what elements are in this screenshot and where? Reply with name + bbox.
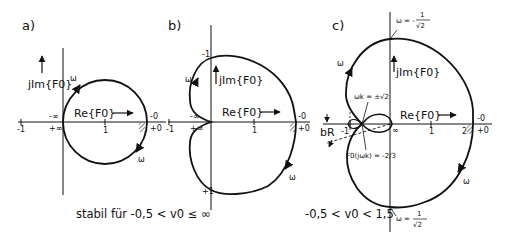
plus-zero-label-b: +0: [298, 124, 310, 133]
omega-label-a-top: ω: [70, 74, 77, 83]
im-axis-label-a: jIm{F0}: [27, 78, 72, 91]
tick-label-c-minus1: -1: [341, 127, 349, 136]
im-tick-label-b-bottom: +1: [202, 187, 214, 196]
minus-inf-label-b: -∞: [190, 112, 200, 121]
omega-label-c-bottom: ω: [463, 177, 470, 186]
re-axis-label-c: Re{F0}: [400, 109, 441, 122]
panel-label-c: c): [332, 18, 344, 33]
omega-bottom-num: 1: [417, 210, 421, 218]
plus-inf-label-b: +∞: [190, 124, 203, 133]
panel-label-b: b): [168, 18, 181, 33]
minus-inf-label-a: -∞: [49, 112, 59, 121]
omega-label-c-top: ω: [337, 59, 344, 68]
plus-inf-label-a: +∞: [49, 124, 62, 133]
leader-omega-top: [390, 30, 397, 39]
tick-label-c-1: 1: [429, 127, 434, 136]
br-label: bR: [320, 126, 335, 139]
panel-a: [18, 48, 166, 195]
omega-top-den: √2: [416, 22, 425, 30]
f-k-annotation: F0(jωk) = -2/3: [346, 152, 396, 160]
tick-label-a-1: 1: [103, 126, 108, 135]
omega-label-b-bottom: ω: [289, 173, 296, 182]
tick-label-a-minus1: -1: [17, 125, 25, 134]
caption-stability-c: -0,5 < v0 < 1,5: [305, 207, 394, 221]
panel-c: [323, 12, 492, 232]
omega-label-a-bottom: ω: [138, 155, 145, 164]
plus-zero-label-c: +0: [477, 126, 489, 135]
im-tick-label-b-top: -1: [202, 50, 210, 59]
omega-top-num: 1: [420, 11, 424, 19]
nyquist-figure: a) jIm{F0} Re{F0} -1 1 -∞ +∞ -0 +0 ω ω b…: [0, 0, 507, 237]
inf-label-c: ∞: [392, 126, 399, 135]
plus-zero-label-a: +0: [150, 124, 162, 133]
omega-arrow-icon: [195, 78, 198, 84]
re-axis-label-a: Re{F0}: [74, 107, 115, 120]
omega-bottom-den: √2: [413, 221, 422, 229]
hatch-a: [139, 123, 145, 132]
locus-c-outer: [346, 39, 473, 208]
tangent-arrow-icon: [329, 140, 332, 147]
tick-label-b-minus1: -1: [166, 125, 174, 134]
minus-zero-label-b: -0: [298, 112, 306, 121]
omega-top-annotation: ω = -: [396, 17, 415, 25]
omega-label-b-top: ω: [185, 75, 192, 84]
omega-bottom-annotation: ω =: [396, 215, 410, 223]
hatch-b: [290, 123, 296, 132]
tick-label-c-2: 2: [462, 127, 467, 136]
panel-label-a: a): [22, 18, 35, 33]
re-axis-label-b: Re{F0}: [222, 106, 263, 119]
minus-zero-label-a: -0: [150, 112, 158, 121]
minus-zero-label-c: -0: [477, 114, 485, 123]
im-axis-label-b: jIm{F0}: [218, 74, 263, 87]
omega-k-annotation: ωk = ±√2: [354, 93, 389, 101]
hatch-c: [467, 125, 473, 134]
locus-c-inner-loop: [362, 114, 392, 132]
caption-stability-ab: stabil für -0,5 < v0 ≤ ∞: [76, 207, 211, 221]
tick-label-b-1: 1: [252, 126, 257, 135]
im-axis-label-c: jIm{F0}: [395, 66, 440, 79]
